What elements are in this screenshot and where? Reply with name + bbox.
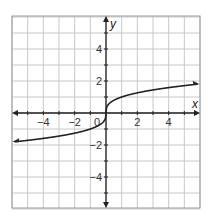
y-tick-label: 2 (96, 75, 102, 87)
x-tick-label: 2 (134, 116, 140, 128)
x-tick-label: −2 (68, 116, 81, 128)
y-axis-label: y (109, 17, 117, 31)
x-axis-label: x (191, 97, 199, 111)
y-tick-label: 4 (96, 43, 102, 55)
x-tick-label: −4 (37, 116, 50, 128)
cube-root-graph: −4−202442−2−4 x y (0, 0, 209, 219)
x-tick-label: 4 (166, 116, 172, 128)
y-tick-label: −2 (89, 139, 102, 151)
y-tick-label: −4 (89, 171, 102, 183)
